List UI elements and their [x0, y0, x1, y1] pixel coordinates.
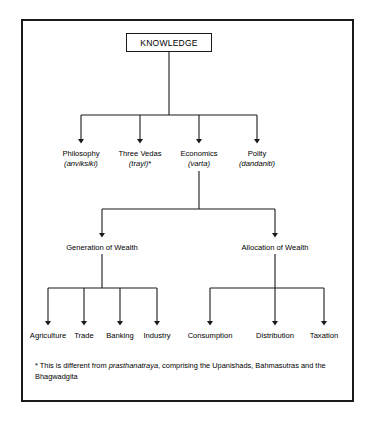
node-consumption-label: Consumption [180, 331, 240, 341]
connector-layer [23, 21, 356, 404]
diagram-frame: KNOWLEDGE Philosophy (anviksiki) Three V… [21, 19, 354, 402]
node-polity-term: (dandaniti) [217, 159, 297, 169]
node-allocation-of-wealth: Allocation of Wealth [215, 243, 335, 253]
node-generation-of-wealth: Generation of Wealth [42, 243, 162, 253]
node-knowledge-label: KNOWLEDGE [140, 38, 198, 48]
node-distribution: Distribution [244, 331, 306, 341]
node-polity-label: Polity [217, 149, 297, 159]
node-consumption: Consumption [180, 331, 240, 341]
node-polity: Polity (dandaniti) [217, 149, 297, 168]
node-knowledge: KNOWLEDGE [126, 33, 212, 52]
footnote-emphasis: prasthanatraya [109, 361, 158, 370]
node-industry: Industry [134, 331, 180, 341]
node-taxation-label: Taxation [298, 331, 350, 341]
node-taxation: Taxation [298, 331, 350, 341]
node-three-vedas-marker: * [148, 159, 151, 168]
footnote-text-before: This is different from [38, 361, 109, 370]
node-industry-label: Industry [134, 331, 180, 341]
node-distribution-label: Distribution [244, 331, 306, 341]
node-generation-of-wealth-label: Generation of Wealth [42, 243, 162, 253]
node-allocation-of-wealth-label: Allocation of Wealth [215, 243, 335, 253]
footnote: * This is different from prasthanatraya,… [35, 361, 345, 382]
